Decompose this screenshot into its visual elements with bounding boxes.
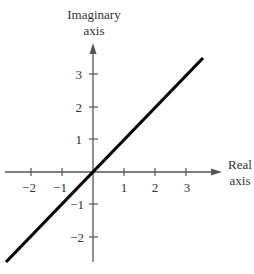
y-tick-label: 3: [76, 67, 83, 82]
y-tick-label: 1: [76, 132, 83, 147]
x-tick-label: 2: [152, 180, 159, 195]
real-axis-arrow-icon: [211, 169, 222, 176]
y-tick-label: −2: [70, 230, 84, 245]
line-re-equals-im: [6, 58, 203, 262]
y-tick-label: 2: [76, 100, 83, 115]
imaginary-axis-arrow-icon: [90, 43, 97, 54]
x-axis-label-line1: Real: [228, 157, 252, 172]
complex-plane-diagram: Imaginary axis Real axis −2 −1 1 2 3 3 2…: [0, 0, 254, 274]
x-axis-label-line2: axis: [230, 173, 251, 188]
x-tick-label: −2: [22, 180, 36, 195]
y-tick-label: −1: [70, 197, 84, 212]
y-axis-label-line2: axis: [84, 23, 105, 38]
x-tick-label: −1: [53, 180, 67, 195]
x-tick-label: 3: [184, 180, 191, 195]
y-axis-label-line1: Imaginary: [67, 7, 121, 22]
x-tick-label: 1: [121, 180, 128, 195]
